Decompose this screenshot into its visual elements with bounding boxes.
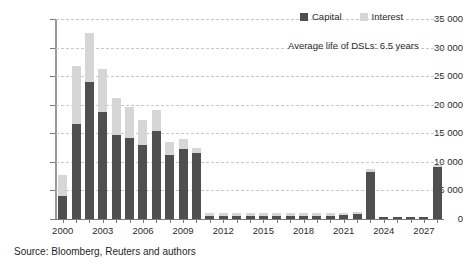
x-axis-tick-mark: [210, 219, 211, 223]
x-axis-tick-mark: [76, 219, 77, 223]
x-axis-tick-mark: [411, 219, 412, 223]
bar-segment-capital: [165, 155, 174, 219]
x-axis-tick-mark: [116, 219, 117, 223]
x-axis-tick-label: 2015: [243, 225, 283, 236]
x-axis-tick-mark: [397, 219, 398, 223]
x-axis-tick-mark: [63, 219, 64, 223]
x-axis-tick-label: 2009: [163, 225, 203, 236]
bar-2009: [179, 139, 188, 219]
x-axis-tick-mark: [384, 219, 385, 223]
x-axis-tick-mark: [277, 219, 278, 223]
bar-2003: [98, 69, 107, 219]
y-axis-tick-mark: [50, 76, 55, 77]
bar-segment-capital: [433, 167, 442, 219]
bar-segment-capital: [138, 145, 147, 219]
x-axis-tick-mark: [183, 219, 184, 223]
x-axis-tick-mark: [143, 219, 144, 223]
y-axis-tick-mark: [50, 105, 55, 106]
x-axis-tick-mark: [130, 219, 131, 223]
x-axis-tick-label: 2012: [203, 225, 243, 236]
y-axis-tick-mark: [50, 190, 55, 191]
bar-2007: [152, 110, 161, 219]
bar-segment-interest: [112, 98, 121, 135]
bar-2000: [58, 175, 67, 219]
x-axis-tick-mark: [317, 219, 318, 223]
chart-container: 35 00030 00025 00020 00015 00010 0005 00…: [0, 0, 463, 270]
bar-segment-capital: [125, 138, 134, 219]
x-axis-tick-label: 2021: [324, 225, 364, 236]
x-axis-tick-mark: [156, 219, 157, 223]
bar-segment-interest: [72, 66, 81, 124]
x-axis-tick-label: 2027: [404, 225, 444, 236]
bar-2001: [72, 66, 81, 219]
bar-segment-capital: [112, 135, 121, 219]
bar-segment-interest: [58, 175, 67, 196]
chart-legend: Capital Interest: [300, 12, 403, 22]
bar-segment-capital: [72, 124, 81, 219]
bar-2005: [125, 107, 134, 219]
legend-swatch-interest: [360, 13, 368, 21]
x-axis-tick-mark: [304, 219, 305, 223]
bar-segment-capital: [192, 153, 201, 219]
x-axis-tick-mark: [330, 219, 331, 223]
source-note: Source: Bloomberg, Reuters and authors: [14, 246, 196, 258]
bar-2023: [366, 169, 375, 219]
bar-2022: [353, 212, 362, 219]
x-axis-tick-mark: [370, 219, 371, 223]
x-axis-tick-label: 2003: [83, 225, 123, 236]
legend-item-capital: Capital: [300, 12, 342, 22]
y-axis-tick-mark: [50, 219, 55, 220]
bar-segment-capital: [58, 196, 67, 219]
x-axis-tick-mark: [357, 219, 358, 223]
x-axis-tick-mark: [437, 219, 438, 223]
bar-2010: [192, 148, 201, 219]
bar-2004: [112, 98, 121, 219]
x-axis-tick-mark: [237, 219, 238, 223]
y-axis-tick-mark: [50, 19, 55, 20]
y-axis-tick-mark: [50, 162, 55, 163]
bar-segment-capital: [366, 172, 375, 219]
x-axis-tick-label: 2006: [123, 225, 163, 236]
x-axis-tick-mark: [89, 219, 90, 223]
bar-segment-interest: [85, 33, 94, 82]
bar-segment-interest: [98, 69, 107, 112]
bar-segment-interest: [125, 107, 134, 138]
bar-2002: [85, 33, 94, 219]
bar-2028: [433, 165, 442, 219]
x-axis-tick-label: 2000: [43, 225, 83, 236]
annotation-average-life: Average life of DSLs: 6.5 years: [288, 40, 419, 52]
bar-segment-interest: [179, 139, 188, 149]
bar-segment-capital: [152, 131, 161, 219]
y-axis-tick-mark: [50, 133, 55, 134]
legend-item-interest: Interest: [360, 12, 404, 22]
x-axis-tick-mark: [250, 219, 251, 223]
y-axis-tick-mark: [50, 48, 55, 49]
bar-segment-capital: [98, 112, 107, 219]
x-axis-tick-mark: [223, 219, 224, 223]
legend-label-capital: Capital: [312, 12, 342, 22]
legend-label-interest: Interest: [372, 12, 404, 22]
bar-2008: [165, 142, 174, 219]
bar-2006: [138, 120, 147, 219]
x-axis-tick-mark: [196, 219, 197, 223]
x-axis-tick-mark: [424, 219, 425, 223]
bar-segment-interest: [165, 142, 174, 155]
bar-segment-interest: [152, 110, 161, 131]
x-axis-tick-mark: [263, 219, 264, 223]
x-axis-tick-mark: [290, 219, 291, 223]
legend-swatch-capital: [300, 13, 308, 21]
x-axis-tick-label: 2018: [284, 225, 324, 236]
bar-segment-interest: [138, 120, 147, 145]
bar-segment-capital: [85, 82, 94, 219]
x-axis-tick-mark: [170, 219, 171, 223]
x-axis-tick-label: 2024: [364, 225, 404, 236]
x-axis-tick-mark: [344, 219, 345, 223]
x-axis-tick-mark: [103, 219, 104, 223]
bar-segment-capital: [179, 149, 188, 219]
